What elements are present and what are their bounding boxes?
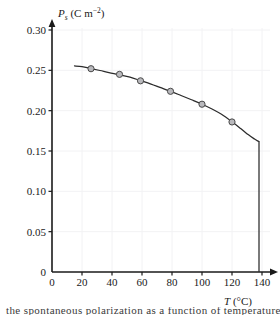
bottom-caption-strip: the spontaneous polarization as a functi… (0, 307, 280, 315)
y-tick-label: 0.10 (27, 185, 47, 197)
x-tick-label: 20 (77, 276, 89, 288)
x-tick-label: 120 (224, 276, 241, 288)
x-tick-label: 0 (49, 276, 55, 288)
y-tick-label: 0.25 (27, 64, 47, 76)
x-tick-label: 140 (254, 276, 271, 288)
chart-svg: 02040608010012014000.050.100.150.200.250… (0, 0, 280, 315)
data-point-marker (167, 88, 173, 94)
data-point-marker (199, 101, 205, 107)
y-tick-label: 0.20 (27, 105, 47, 117)
bottom-caption: the spontaneous polarization as a functi… (6, 307, 280, 315)
x-tick-label: 60 (137, 276, 149, 288)
y-tick-label: 0.30 (27, 24, 47, 36)
y-tick-label: 0.15 (27, 145, 47, 157)
x-tick-label: 80 (167, 276, 179, 288)
chart-figure: 02040608010012014000.050.100.150.200.250… (0, 0, 280, 315)
data-point-marker (88, 66, 94, 72)
data-point-marker (137, 78, 143, 84)
x-tick-label: 40 (107, 276, 119, 288)
x-tick-label: 100 (194, 276, 211, 288)
data-point-marker (116, 71, 122, 77)
data-point-marker (229, 119, 235, 125)
y-tick-label: 0.05 (27, 226, 47, 238)
y-tick-label: 0 (41, 266, 47, 278)
